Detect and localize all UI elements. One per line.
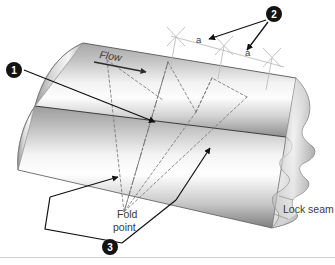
duct-fold-diagram: Flow a a bbox=[0, 0, 335, 265]
callout-3-bracket bbox=[45, 197, 122, 243]
callout-1-number: 1 bbox=[11, 65, 17, 76]
fold-point-label-line1: Fold bbox=[117, 208, 138, 220]
lock-seam-label: Lock seam bbox=[283, 203, 334, 215]
callout-2-number: 2 bbox=[271, 9, 277, 20]
duct-body bbox=[18, 43, 315, 228]
callout-marker-2[interactable]: 2 bbox=[266, 6, 282, 22]
callout-2-leaders bbox=[209, 20, 268, 50]
callout-marker-3[interactable]: 3 bbox=[102, 239, 118, 255]
callout-marker-1[interactable]: 1 bbox=[6, 62, 22, 78]
fold-point-label: Fold point bbox=[113, 208, 138, 233]
dimension-label-a-left: a bbox=[196, 34, 202, 45]
callout-2-arrow-right bbox=[247, 22, 268, 50]
callout-3-number: 3 bbox=[107, 242, 113, 253]
fold-point-label-line2: point bbox=[113, 221, 136, 233]
